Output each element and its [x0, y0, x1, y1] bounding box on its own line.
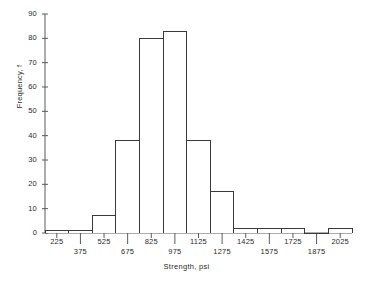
y-axis-tick-label: 60 [15, 82, 37, 91]
histogram-outline [45, 31, 352, 233]
histogram-figure: Frequency, f Strength, psi 0102030405060… [0, 0, 373, 282]
y-axis-tick-label: 20 [15, 179, 37, 188]
x-axis-tick-label: 1425 [229, 237, 263, 246]
x-axis-tick-label: 375 [63, 247, 97, 256]
x-axis-tick-label: 975 [158, 247, 192, 256]
x-axis-tick-label: 2025 [323, 237, 357, 246]
y-axis-tick-label: 30 [15, 155, 37, 164]
x-axis-tick-label: 825 [134, 237, 168, 246]
x-axis-tick-label: 525 [87, 237, 121, 246]
x-axis-tick-label: 1275 [205, 247, 239, 256]
x-axis-tick-label: 1875 [300, 247, 334, 256]
y-axis-tick-label: 10 [15, 204, 37, 213]
y-axis-tick-label: 0 [15, 228, 37, 237]
x-axis-tick-label: 1575 [252, 247, 286, 256]
y-axis-tick-label: 80 [15, 33, 37, 42]
x-axis-tick-label: 1125 [182, 237, 216, 246]
y-axis-tick-label: 40 [15, 131, 37, 140]
x-axis-tick-label: 225 [40, 237, 74, 246]
x-axis-tick-label: 1725 [276, 237, 310, 246]
y-axis-tick-label: 70 [15, 58, 37, 67]
x-axis-tick-label: 675 [111, 247, 145, 256]
y-axis-tick-label: 50 [15, 106, 37, 115]
y-axis-tick-label: 90 [15, 9, 37, 18]
